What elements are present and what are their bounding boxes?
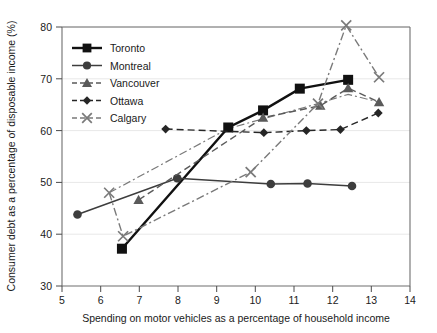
y-tick-label-50: 50 <box>40 176 52 188</box>
x-tick-label-8: 8 <box>175 294 181 306</box>
y-axis-ticks <box>56 27 62 286</box>
x-tick-label-10: 10 <box>249 294 261 306</box>
x-tick-label-9: 9 <box>214 294 220 306</box>
chart-figure: 80 70 60 50 40 30 5 6 7 8 9 10 11 12 13 … <box>0 0 437 333</box>
legend-marker-montreal <box>83 61 91 69</box>
x-tick-label-12: 12 <box>327 294 339 306</box>
x-tick-label-5: 5 <box>59 294 65 306</box>
x-axis-ticks <box>62 286 410 292</box>
legend-label-toronto: Toronto <box>110 42 145 54</box>
legend-marker-toronto <box>83 44 92 53</box>
legend-label-ottawa: Ottawa <box>110 95 143 107</box>
x-tick-label-11: 11 <box>289 294 300 306</box>
y-tick-label-80: 80 <box>40 21 52 33</box>
x-tick-label-7: 7 <box>136 294 142 306</box>
data-point-montreal <box>267 180 276 189</box>
y-axis-title: Consumer debt as a percentage of disposa… <box>5 21 17 292</box>
y-tick-label-60: 60 <box>40 125 52 137</box>
legend-item-calgary[interactable]: Calgary <box>72 112 147 124</box>
legend-label-montreal: Montreal <box>110 60 151 72</box>
data-point-montreal <box>303 179 312 188</box>
data-point-montreal <box>73 210 82 219</box>
x-tick-label-14: 14 <box>404 294 416 306</box>
x-tick-label-6: 6 <box>98 294 104 306</box>
x-axis-title: Spending on motor vehicles as a percenta… <box>82 312 390 324</box>
data-point-toronto <box>295 84 305 94</box>
y-tick-label-70: 70 <box>40 73 52 85</box>
line-chart: 80 70 60 50 40 30 5 6 7 8 9 10 11 12 13 … <box>0 0 437 333</box>
data-point-toronto <box>117 244 127 254</box>
legend-label-vancouver: Vancouver <box>110 77 160 89</box>
data-point-montreal <box>348 182 357 191</box>
y-tick-label-30: 30 <box>40 280 52 292</box>
y-tick-label-40: 40 <box>40 228 52 240</box>
x-tick-label-13: 13 <box>365 294 377 306</box>
legend-label-calgary: Calgary <box>110 112 147 124</box>
